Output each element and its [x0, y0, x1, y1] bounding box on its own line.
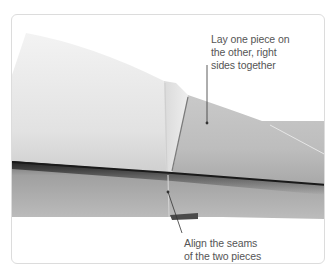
callout-line: Lay one piece on: [211, 33, 321, 46]
illustration-frame: Lay one piece on the other, right sides …: [11, 14, 325, 264]
callout-line: Align the seams: [184, 237, 304, 250]
leader-dot-bottom: [167, 191, 170, 194]
leader-dot-top: [206, 122, 209, 125]
callout-line: of the two pieces: [184, 250, 304, 263]
callout-align-seams: Align the seams of the two pieces: [184, 237, 304, 263]
callout-line: sides together: [211, 59, 321, 72]
callout-lay-pieces: Lay one piece on the other, right sides …: [211, 33, 321, 72]
top-fabric-right-panel: [172, 95, 325, 185]
callout-line: the other, right: [211, 46, 321, 59]
top-fabric-left-panel: [12, 33, 172, 173]
